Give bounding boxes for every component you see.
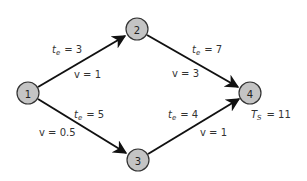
node-1: 1 (17, 82, 39, 104)
network-diagram: te= 3 v = 1 te= 7 v = 3 te= 5 v = 0.5 te… (0, 0, 307, 181)
edge-1-3-v-label: v = 0.5 (39, 127, 76, 138)
edge-3-4-v-label: v = 1 (200, 127, 227, 138)
node-2: 2 (126, 18, 148, 40)
total-time-annotation: TS= 11 (251, 109, 291, 122)
node-3-label: 3 (135, 156, 141, 167)
node-4-label: 4 (247, 89, 253, 100)
edge-1-2-te-label: te= 3 (52, 44, 82, 57)
edge-2-4-v-label: v = 3 (172, 68, 199, 79)
edge-2-4-te-label: te= 7 (192, 44, 222, 57)
node-4: 4 (239, 82, 261, 104)
edge-1-2-v-label: v = 1 (74, 69, 101, 80)
edge-3-4-te-label: te= 4 (168, 109, 198, 122)
edge-1-3 (38, 99, 126, 153)
node-1-label: 1 (25, 89, 31, 100)
node-2-label: 2 (134, 25, 140, 36)
edge-2-4 (147, 35, 238, 87)
node-3: 3 (127, 149, 149, 171)
edge-1-3-te-label: te= 5 (74, 109, 104, 122)
